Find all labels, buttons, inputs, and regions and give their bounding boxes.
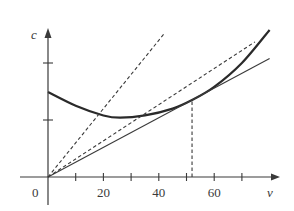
x-tick-label: 60 [208, 185, 221, 200]
origin-label: 0 [32, 185, 39, 200]
x-tick-label: 40 [152, 185, 165, 200]
axes: c v 0 204060 [20, 27, 280, 205]
y-axis-label: c [31, 27, 37, 42]
tangent-line [48, 58, 270, 177]
x-tick-labels: 204060 [97, 185, 221, 200]
series-layer [48, 30, 270, 177]
x-axis-label: v [267, 185, 273, 200]
chart: c v 0 204060 [0, 0, 294, 211]
dashed-line [48, 42, 255, 177]
dashed-line [48, 33, 165, 177]
y-axis-arrow-icon [45, 28, 52, 38]
x-tick-label: 20 [97, 185, 110, 200]
x-axis-arrow-icon [271, 174, 280, 181]
